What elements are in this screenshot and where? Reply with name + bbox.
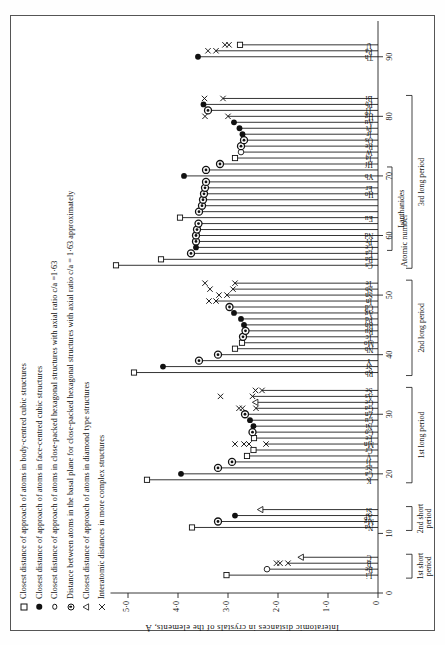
period-bracket-label: 2nd long period: [417, 288, 426, 368]
element-symbol: Se: [359, 386, 379, 394]
cross-icon: [94, 599, 109, 615]
y-tick-label: 0: [372, 601, 381, 619]
element-symbol: Nd: [359, 232, 379, 240]
period-bracket-label: 2nd short period: [417, 479, 434, 559]
x-tick-label: 40: [385, 345, 394, 365]
open-square-icon: [16, 599, 31, 615]
legend-item-label: Distance between atoms in the basal plan…: [66, 191, 75, 599]
y-tick-label: 1·0: [322, 601, 331, 619]
legend-item-label: Closest distance of approach of atoms in…: [35, 366, 44, 599]
element-symbol: Eu: [359, 214, 379, 222]
x-tick-label: 30: [385, 404, 394, 424]
element-symbol: Si: [359, 506, 379, 514]
legend-item: Closest distance of approach of atoms in…: [16, 195, 32, 615]
legend-item: Interatomic distances in more complex st…: [94, 195, 110, 615]
x-tick-label: 70: [385, 166, 394, 186]
period-bracket-label: 3rd long period: [417, 142, 426, 222]
element-symbol: Te: [359, 279, 379, 287]
x-tick-label: 20: [385, 464, 394, 484]
period-bracket-label: Lanthanides: [397, 169, 406, 249]
legend-item: Distance between atoms in the basal plan…: [63, 195, 79, 615]
legend-item: Closest distance of approach of atoms in…: [47, 195, 63, 615]
element-symbol: U: [359, 41, 379, 49]
element-symbol: C: [359, 553, 379, 561]
x-tick-label: 50: [385, 285, 394, 305]
element-symbol: Er: [359, 184, 379, 192]
element-symbol: Yb: [359, 172, 379, 180]
x-tick-label: 0: [385, 583, 394, 603]
element-symbol: Bi: [359, 94, 379, 102]
figure-stage: Closest distance of approach of atoms in…: [0, 0, 445, 645]
filled-circle-icon: [32, 599, 47, 615]
figure-page: Closest distance of approach of atoms in…: [0, 0, 445, 645]
triangle-icon: [79, 599, 94, 615]
period-bracket-label: 1st long period: [417, 395, 426, 475]
y-tick-label: 5·0: [122, 601, 131, 619]
y-tick-label: 2·0: [272, 601, 281, 619]
legend-item-label: Interatomic distances in more complex st…: [97, 435, 106, 599]
x-tick-label: 80: [385, 106, 394, 126]
legend-item-label: Closest distance of approach of atoms in…: [50, 261, 59, 599]
y-axis-title: Interatomic distances in crystals of the…: [137, 623, 347, 633]
bullseye-icon: [63, 599, 78, 615]
legend-item-label: Closest distance of approach of atoms in…: [82, 382, 91, 599]
x-tick-label: 10: [385, 523, 394, 543]
y-tick-label: 4·0: [172, 601, 181, 619]
legend-item: Closest distance of approach of atoms in…: [78, 195, 94, 615]
legend-item-label: Closest distance of approach of atoms in…: [19, 363, 28, 599]
x-tick-label: 90: [385, 47, 394, 67]
y-tick-label: 3·0: [222, 601, 231, 619]
open-circle-icon: [47, 599, 62, 615]
element-symbol: Y: [359, 357, 379, 365]
legend: Closest distance of approach of atoms in…: [16, 195, 110, 615]
legend-item: Closest distance of approach of atoms in…: [32, 195, 48, 615]
x-tick-label: 60: [385, 226, 394, 246]
